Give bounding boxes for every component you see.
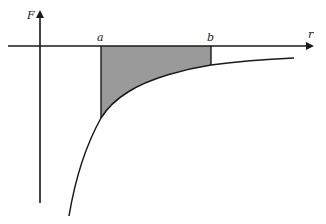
r-axis-label: r [308, 28, 314, 41]
f-axis-label: F [26, 9, 35, 22]
shaded-area [101, 46, 211, 118]
b-label: b [207, 31, 214, 44]
force-distance-diagram: F r a b [0, 0, 326, 224]
a-label: a [97, 31, 104, 44]
